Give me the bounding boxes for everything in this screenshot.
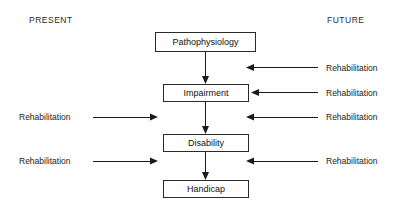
rehabilitation-label-left-2: Rehabilitation [19, 156, 71, 166]
rehabilitation-label-left-1: Rehabilitation [19, 112, 71, 122]
node-pathophysiology-label: Pathophysiology [172, 37, 238, 47]
rehabilitation-arrow-left-1 [93, 114, 158, 121]
flow-arrow-disability-handicap [202, 152, 209, 180]
rehabilitation-label-right-1: Rehabilitation [326, 63, 378, 73]
node-disability[interactable]: Disability [163, 134, 249, 152]
rehabilitation-arrow-left-2 [93, 158, 158, 165]
rehabilitation-label-right-4: Rehabilitation [326, 156, 378, 166]
rehabilitation-arrow-right-3 [246, 114, 318, 121]
node-impairment[interactable]: Impairment [163, 84, 249, 102]
node-handicap[interactable]: Handicap [163, 180, 249, 198]
node-pathophysiology[interactable]: Pathophysiology [155, 32, 256, 52]
node-disability-label: Disability [188, 138, 224, 148]
rehabilitation-label-right-2: Rehabilitation [326, 88, 378, 98]
node-impairment-label: Impairment [183, 88, 228, 98]
disablement-process-diagram: PRESENT FUTURE [0, 0, 406, 207]
rehabilitation-arrow-right-4 [246, 158, 318, 165]
flow-arrow-impairment-disability [202, 102, 209, 134]
rehabilitation-arrow-right-1 [246, 64, 318, 71]
rehabilitation-arrow-right-2 [251, 89, 318, 96]
node-handicap-label: Handicap [187, 184, 225, 194]
flow-arrow-pathophysiology-impairment [202, 52, 209, 84]
rehabilitation-label-right-3: Rehabilitation [326, 112, 378, 122]
